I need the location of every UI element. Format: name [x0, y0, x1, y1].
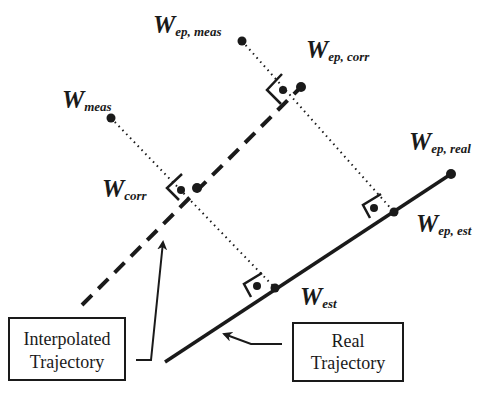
point-w-ep-real: [446, 169, 456, 179]
projection-ep-meas-to-ep-est: [242, 41, 394, 212]
label-w-ep-meas: Wep, meas: [153, 11, 221, 39]
projection-meas-to-est: [111, 118, 275, 288]
point-w-corr: [192, 183, 202, 193]
point-w-est: [271, 284, 280, 293]
real-box-line1: Real: [332, 331, 365, 351]
point-w-ep-corr: [296, 82, 306, 92]
point-w-ep-meas: [238, 37, 247, 46]
interpolated-callout-arrow: [136, 242, 163, 360]
label-w-corr: Wcorr: [102, 175, 148, 203]
real-trajectory-callout: Real Trajectory: [293, 323, 403, 381]
real-callout-arrow: [224, 334, 282, 344]
label-w-ep-corr: Wep, corr: [306, 36, 370, 64]
label-w-meas: Wmeas: [62, 86, 112, 114]
point-w-meas: [107, 114, 116, 123]
interpolated-trajectory-callout: Interpolated Trajectory: [9, 318, 125, 380]
interpolated-box-line1: Interpolated: [24, 329, 111, 349]
real-box-line2: Trajectory: [311, 353, 385, 373]
label-w-ep-real: Wep, real: [409, 128, 471, 156]
interpolated-box-line2: Trajectory: [30, 352, 104, 372]
right-angle-marker-ep-corr: [267, 74, 287, 104]
right-angle-marker-ep-est: [363, 194, 381, 218]
label-w-ep-est: Wep, est: [416, 210, 472, 238]
right-angle-marker-est: [244, 273, 262, 297]
label-w-est: West: [300, 283, 337, 311]
point-w-ep-est: [390, 208, 399, 217]
trajectory-diagram: Wmeas Wep, meas Wep, corr Wcorr Wep, rea…: [0, 0, 496, 396]
